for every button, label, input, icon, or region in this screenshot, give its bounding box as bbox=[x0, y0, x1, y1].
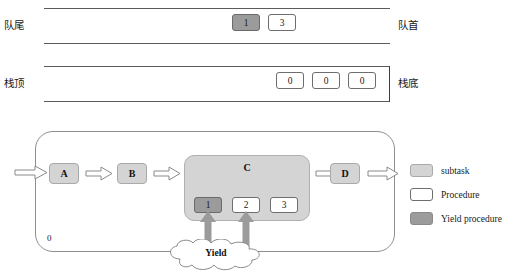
legend-label-yield-procedure: Yield procedure bbox=[441, 214, 502, 224]
stack-rail-top bbox=[44, 66, 390, 67]
task-box-d[interactable]: D bbox=[330, 163, 360, 184]
stack-top-label: 栈顶 bbox=[4, 78, 24, 89]
legend-swatch-yield-procedure-icon bbox=[410, 212, 433, 225]
container-id-label: 0 bbox=[47, 233, 52, 243]
exit-arrow-icon bbox=[367, 166, 399, 181]
legend-label-subtask: subtask bbox=[441, 166, 470, 176]
queue-cell-1[interactable]: 3 bbox=[268, 14, 296, 31]
arrow-a-to-b-icon bbox=[85, 166, 113, 181]
stack-bottom-label: 栈底 bbox=[398, 78, 418, 89]
procedure-cell-3[interactable]: 3 bbox=[270, 197, 298, 213]
stack-cell-0[interactable]: 0 bbox=[276, 72, 304, 89]
subtask-label-c: C bbox=[185, 162, 309, 173]
stack-cell-2[interactable]: 0 bbox=[348, 72, 376, 89]
entry-arrow-icon bbox=[14, 165, 48, 180]
legend-item-subtask: subtask bbox=[410, 164, 470, 177]
stack-bottom-cap bbox=[389, 66, 390, 102]
queue-cell-0[interactable]: 1 bbox=[232, 14, 260, 31]
diagram-canvas: 队尾 队首 1 3 栈顶 栈底 0 0 0 0 A B C 1 2 3 bbox=[0, 0, 521, 277]
arrow-b-to-c-icon bbox=[153, 166, 181, 181]
legend-item-yield-procedure: Yield procedure bbox=[410, 212, 502, 225]
legend-label-procedure: Procedure bbox=[441, 190, 480, 200]
yield-cloud[interactable]: Yield bbox=[163, 239, 269, 271]
queue-rail-top bbox=[44, 8, 390, 9]
legend-swatch-procedure-icon bbox=[410, 188, 433, 201]
queue-rail-bottom bbox=[44, 43, 390, 44]
legend-item-procedure: Procedure bbox=[410, 188, 480, 201]
task-box-a[interactable]: A bbox=[49, 163, 79, 184]
task-box-b[interactable]: B bbox=[117, 163, 147, 184]
stack-cell-1[interactable]: 0 bbox=[312, 72, 340, 89]
queue-tail-label: 队尾 bbox=[4, 20, 24, 31]
queue-head-label: 队首 bbox=[398, 20, 418, 31]
legend-swatch-subtask-icon bbox=[410, 164, 433, 177]
stack-rail-bottom bbox=[44, 101, 390, 102]
